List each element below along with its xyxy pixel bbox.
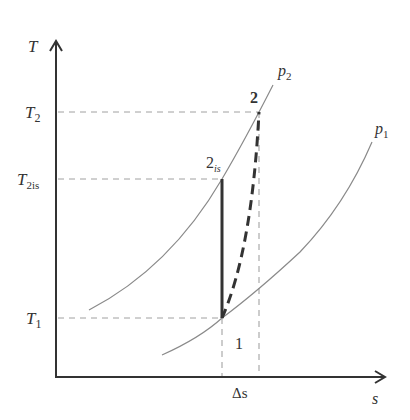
p2-label: p2: [277, 62, 292, 82]
t1-label: T1: [26, 309, 41, 331]
delta-s-label: Δs: [232, 385, 248, 401]
x-axis-label: s: [372, 390, 378, 407]
p1-label: p1: [374, 120, 389, 140]
t2is-label: T2is: [17, 170, 39, 191]
t2-label: T2: [25, 103, 40, 125]
point-1-label: 1: [235, 335, 243, 352]
point-2-label: 2: [250, 89, 258, 106]
real-process-line: [222, 112, 259, 318]
y-axis-label: T: [28, 37, 39, 56]
t-s-diagram: T s T2 T2is T1 p2 p1 2 2is 1 Δs: [0, 0, 410, 420]
isobar-p2-curve: [89, 85, 273, 310]
point-2is-label: 2is: [206, 154, 221, 174]
isobar-p1-curve: [162, 142, 372, 355]
